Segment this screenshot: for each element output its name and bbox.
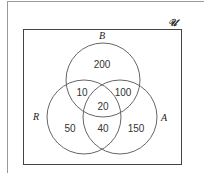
- venn-diagram: 𝒰 B R A 200 10 100 20 50 40 150: [0, 0, 204, 177]
- region-b-only: 200: [94, 59, 111, 70]
- universe-label: 𝒰: [168, 17, 181, 28]
- set-label-r: R: [32, 111, 39, 122]
- region-all-three: 20: [97, 101, 109, 112]
- region-r-and-a: 40: [97, 123, 109, 134]
- universe-rectangle: [24, 30, 182, 165]
- region-b-and-a: 100: [115, 87, 132, 98]
- set-label-a: A: [160, 112, 168, 123]
- region-r-and-b: 10: [76, 87, 88, 98]
- set-label-b: B: [99, 30, 105, 41]
- region-a-only: 150: [128, 123, 145, 134]
- region-r-only: 50: [64, 123, 76, 134]
